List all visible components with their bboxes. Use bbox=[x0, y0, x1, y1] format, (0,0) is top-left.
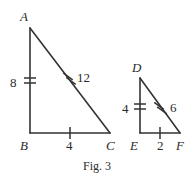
large-triangle bbox=[24, 28, 110, 139]
vertex-label-c: C bbox=[106, 139, 115, 152]
tick-marks-df bbox=[154, 102, 167, 114]
geometry-figure: A B C 8 4 12 D E F 4 2 6 Fig. 3 bbox=[0, 0, 194, 179]
measure-label-ac: 12 bbox=[77, 71, 90, 84]
measure-label-ab: 8 bbox=[10, 76, 17, 89]
vertex-label-d: D bbox=[132, 61, 141, 74]
vertex-label-a: A bbox=[20, 10, 28, 23]
figure-drawing bbox=[0, 0, 194, 179]
vertex-label-f: F bbox=[176, 139, 184, 152]
measure-label-de: 4 bbox=[122, 102, 129, 115]
measure-label-bc: 4 bbox=[66, 139, 73, 152]
measure-label-ef: 2 bbox=[157, 139, 164, 152]
measure-label-df: 6 bbox=[170, 101, 177, 114]
figure-caption: Fig. 3 bbox=[0, 160, 194, 172]
vertex-label-b: B bbox=[20, 139, 28, 152]
vertex-label-e: E bbox=[130, 139, 138, 152]
